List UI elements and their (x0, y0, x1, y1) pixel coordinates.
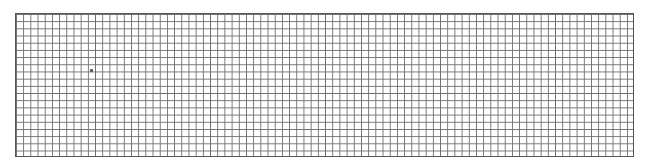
stray-mark-dot (90, 69, 93, 72)
graph-paper-grid (15, 13, 634, 157)
